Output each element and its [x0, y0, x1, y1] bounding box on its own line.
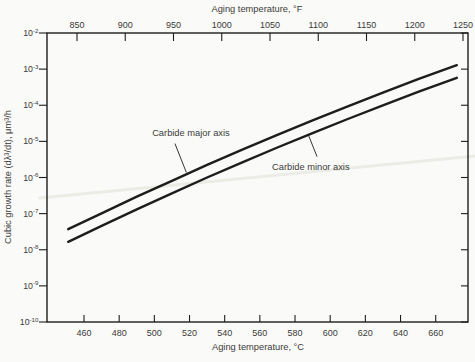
annotation-label: Carbide major axis — [152, 128, 230, 138]
curve-carbide-major-axis — [68, 65, 457, 229]
y-axis-tick-label: 10-10 — [20, 316, 39, 328]
y-axis-tick-label: 10-2 — [23, 27, 39, 39]
top-axis-tick-label: 900 — [118, 20, 133, 30]
top-axis-title: Aging temperature, °F — [211, 4, 302, 14]
y-axis-tick-label: 10-9 — [23, 279, 39, 291]
bottom-axis-tick-label: 620 — [358, 328, 373, 338]
bottom-axis-tick-label: 560 — [252, 328, 267, 338]
annotation-label: Carbide minor axis — [272, 162, 350, 172]
bottom-axis-title: Aging temperature, °C — [212, 342, 304, 352]
top-axis-tick-label: 1100 — [309, 20, 328, 30]
y-axis-tick-label: 10-4 — [23, 99, 39, 111]
y-axis-tick-label: 10-6 — [23, 171, 39, 183]
y-axis-title: Cubic growth rate (dλ³/dt), μm³/h — [3, 110, 13, 244]
bottom-axis-tick-label: 660 — [428, 328, 443, 338]
y-axis-tick-label: 10-5 — [23, 135, 39, 147]
curve-carbide-minor-axis — [68, 78, 457, 242]
y-axis-tick-label: 10-3 — [23, 63, 39, 75]
figure: 8509009501000105011001150120012504604805… — [0, 0, 475, 362]
y-axis-tick-label: 10-7 — [23, 207, 39, 219]
bottom-axis-tick-label: 480 — [112, 328, 127, 338]
annotation-leader-line — [175, 144, 186, 173]
top-axis-tick-label: 1200 — [405, 20, 425, 30]
bottom-axis-tick-label: 540 — [217, 328, 232, 338]
top-axis-tick-label: 1250 — [453, 20, 473, 30]
y-axis-tick-label: 10-8 — [23, 243, 39, 255]
scan-artifact-line — [40, 156, 475, 198]
bottom-axis-tick-label: 520 — [182, 328, 197, 338]
annotation-leader-line — [308, 134, 317, 156]
top-axis-tick-label: 950 — [166, 20, 181, 30]
plot-layer: 8509009501000105011001150120012504604805… — [20, 20, 475, 338]
bottom-axis-tick-label: 500 — [147, 328, 162, 338]
bottom-axis-tick-label: 600 — [323, 328, 338, 338]
top-axis-tick-label: 1050 — [260, 20, 280, 30]
bottom-axis-tick-label: 460 — [76, 328, 91, 338]
bottom-axis-tick-label: 580 — [288, 328, 303, 338]
top-axis-tick-label: 1150 — [357, 20, 376, 30]
top-axis-tick-label: 850 — [69, 20, 84, 30]
bottom-axis-tick-label: 640 — [393, 328, 408, 338]
top-axis-tick-label: 1000 — [212, 20, 232, 30]
aging-temperature-chart: 8509009501000105011001150120012504604805… — [0, 0, 475, 362]
